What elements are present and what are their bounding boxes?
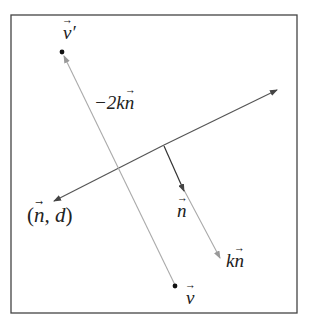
plane-line-left: [54, 145, 164, 201]
label-plane: (n, d): [27, 203, 73, 228]
normal-vector: [164, 146, 184, 191]
reflection-line: [64, 56, 175, 285]
label-k-n: kn: [226, 250, 244, 272]
point-v-prime: [60, 50, 65, 55]
label-minus-2kn: −2kn: [94, 92, 134, 114]
label-v: v: [186, 287, 194, 309]
k-n-vector: [184, 190, 220, 258]
point-v: [173, 284, 178, 289]
label-v-prime: v′: [63, 22, 76, 44]
label-n: n: [177, 200, 187, 222]
frame: [11, 15, 297, 313]
plane-line: [164, 90, 277, 145]
reflection-diagram: [0, 0, 310, 321]
